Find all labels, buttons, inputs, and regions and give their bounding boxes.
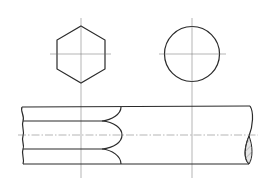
transition-arc-bottom [102, 149, 121, 164]
front-view [18, 106, 258, 164]
round-section-view [159, 18, 226, 178]
transition-arc-top [102, 107, 121, 121]
left-break-line [22, 107, 24, 164]
bar-top-edge [22, 106, 250, 107]
technical-drawing [0, 0, 273, 180]
break-section-hatch [245, 136, 252, 164]
hexagon-section-view [50, 18, 111, 178]
